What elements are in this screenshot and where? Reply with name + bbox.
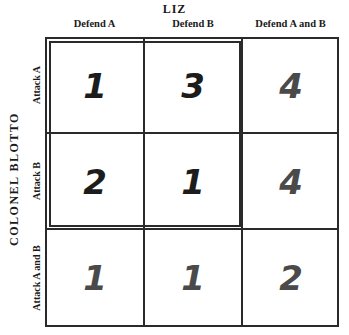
column-header-defend-b: Defend B: [144, 18, 242, 29]
row-header-attack-a: Attack A: [31, 66, 42, 104]
payoff-cell-r2-c2: 1: [144, 134, 242, 230]
payoff-cell-r1-c3: 4: [242, 38, 340, 134]
row-player-title: COLONEL BLOTTO: [7, 112, 22, 246]
payoff-cell-r3-c2: 1: [144, 230, 242, 326]
payoff-cell-r1-c2: 3: [144, 38, 242, 134]
column-header-defend-a-and-b: Defend A and B: [242, 18, 339, 29]
payoff-cell-r2-c3: 4: [242, 134, 340, 230]
column-header-defend-a: Defend A: [45, 18, 144, 29]
payoff-cell-r3-c3: 2: [242, 230, 340, 326]
column-player-title: LIZ: [0, 2, 349, 17]
payoff-cell-r2-c1: 2: [46, 134, 144, 230]
row-header-attack-b: Attack B: [31, 162, 42, 200]
payoff-cell-r1-c1: 1: [46, 38, 144, 134]
payoff-cell-r3-c1: 1: [46, 230, 144, 326]
row-header-attack-a-and-b: Attack A and B: [31, 245, 42, 310]
